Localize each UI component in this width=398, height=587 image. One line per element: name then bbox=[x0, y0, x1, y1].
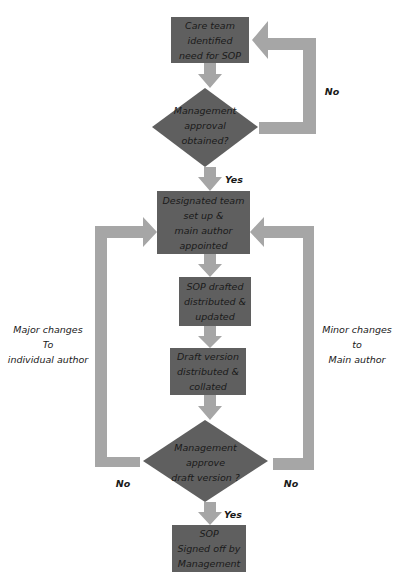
node-mgmt-approve-draft: Management approve draft version ? bbox=[143, 437, 268, 487]
arrow-down-3 bbox=[198, 254, 222, 277]
node-sop-signed-text: SOP Signed off by Management bbox=[178, 526, 241, 571]
node-mgmt-approval: Management approval obtained? bbox=[152, 100, 258, 150]
label-major-changes: Major changes To individual author bbox=[2, 322, 94, 367]
loop-no-top bbox=[252, 21, 316, 134]
arrow-down-2 bbox=[198, 167, 222, 191]
node-sop-drafted-text: SOP drafted distributed & updated bbox=[184, 279, 246, 324]
label-yes-top: Yes bbox=[222, 172, 246, 187]
label-no-right: No bbox=[281, 476, 301, 491]
loop-minor-changes bbox=[250, 217, 314, 470]
arrow-down-6 bbox=[198, 502, 222, 525]
node-draft-version-text: Draft version distributed & collated bbox=[177, 349, 239, 394]
arrow-down-5 bbox=[198, 395, 222, 420]
arrow-down-4 bbox=[198, 326, 222, 348]
label-no-top: No bbox=[322, 84, 342, 99]
node-sop-signed: SOP Signed off by Management bbox=[172, 525, 246, 572]
node-draft-version: Draft version distributed & collated bbox=[170, 348, 246, 395]
node-sop-drafted: SOP drafted distributed & updated bbox=[179, 277, 251, 326]
node-mgmt-approve-draft-text: Management approve draft version ? bbox=[171, 440, 240, 485]
label-yes-bottom: Yes bbox=[221, 507, 245, 522]
label-minor-changes: Minor changes to Main author bbox=[316, 322, 398, 367]
arrow-down-1 bbox=[198, 63, 222, 88]
node-mgmt-approval-text: Management approval obtained? bbox=[174, 103, 237, 148]
node-designated-team-text: Designated team set up & main author app… bbox=[163, 193, 245, 253]
label-no-left: No bbox=[113, 476, 133, 491]
node-care-team-text: Care team identified need for SOP bbox=[179, 18, 241, 63]
node-designated-team: Designated team set up & main author app… bbox=[157, 191, 250, 254]
node-care-team: Care team identified need for SOP bbox=[171, 17, 249, 63]
loop-major-changes bbox=[95, 217, 157, 467]
